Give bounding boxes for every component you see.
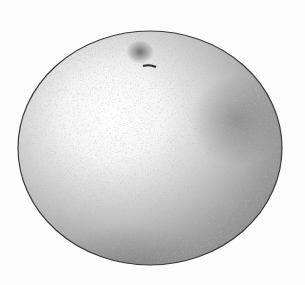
illustration-canvas — [0, 0, 305, 285]
grapefruit-illustration — [0, 0, 305, 285]
fruit-body — [0, 0, 305, 285]
